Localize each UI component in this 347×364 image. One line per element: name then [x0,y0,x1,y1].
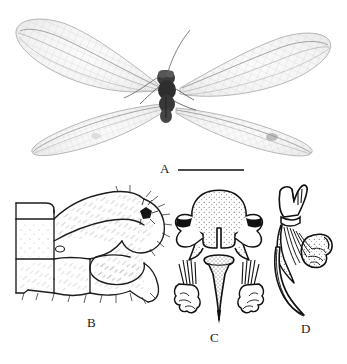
genitalia-lateral-drawing [268,183,340,323]
panel-a-habitus [0,0,347,160]
abdominal-segments-drawing [10,183,175,313]
lateral-lobe [301,234,332,267]
figure-plate: A [0,0,347,364]
gonosetae-left [175,260,201,313]
gonosetae-right [238,260,264,313]
arcessus-hook [275,247,304,316]
panel-d-genitalia-lateral [268,183,340,323]
panel-label-c: C [210,331,219,344]
panel-label-a: A [160,162,170,175]
apical-process [279,185,307,226]
panel-c-genitalia-ventral [173,186,265,328]
panel-label-d: D [301,322,311,335]
gonarcus [176,190,263,260]
genitalia-ventral-drawing [173,186,265,328]
lacewing-habitus-image [0,0,347,160]
arcessus [204,255,234,324]
panel-b-abdomen-drawing [10,183,175,313]
scale-bar [178,169,244,171]
panel-label-b: B [87,316,96,329]
